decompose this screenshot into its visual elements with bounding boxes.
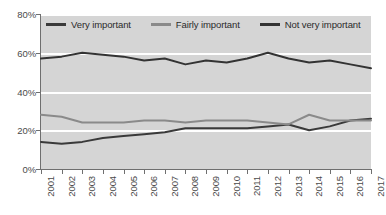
x-axis-label: 2005 — [128, 176, 139, 197]
legend-item-fairly-important: Fairly important — [151, 17, 240, 31]
legend-label: Not very important — [285, 19, 361, 30]
x-tick-mark — [268, 169, 269, 174]
x-axis-label: 2007 — [169, 176, 180, 197]
legend-item-not-very-important: Not very important — [260, 17, 361, 31]
plot-area — [41, 14, 371, 169]
x-axis-label: 2006 — [148, 176, 159, 197]
gridline-40 — [41, 92, 371, 94]
gridline-80 — [41, 14, 371, 16]
legend-swatch-very-important — [46, 23, 66, 26]
x-axis-label: 2013 — [293, 176, 304, 197]
x-tick-mark — [309, 169, 310, 174]
y-axis-label: 0% — [22, 164, 36, 175]
x-axis-label: 2017 — [375, 176, 386, 197]
x-axis-label: 2010 — [231, 176, 242, 197]
x-axis-label: 2012 — [272, 176, 283, 197]
x-tick-mark — [371, 169, 372, 174]
y-tick-mark — [36, 92, 41, 93]
x-tick-mark — [185, 169, 186, 174]
x-tick-mark — [330, 169, 331, 174]
x-axis-label: 2004 — [107, 176, 118, 197]
x-axis-label: 2001 — [45, 176, 56, 197]
x-axis-label: 2014 — [313, 176, 324, 197]
x-axis-label: 2008 — [189, 176, 200, 197]
x-tick-mark — [62, 169, 63, 174]
x-tick-mark — [247, 169, 248, 174]
legend: Very important Fairly important Not very… — [46, 17, 361, 31]
x-tick-mark — [124, 169, 125, 174]
y-axis-label: 40% — [17, 86, 36, 97]
y-tick-mark — [36, 53, 41, 54]
x-tick-mark — [227, 169, 228, 174]
x-tick-mark — [350, 169, 351, 174]
x-axis-label: 2009 — [210, 176, 221, 197]
y-tick-mark — [36, 130, 41, 131]
x-axis-label: 2016 — [354, 176, 365, 197]
legend-swatch-fairly-important — [151, 23, 171, 26]
legend-label: Fairly important — [176, 19, 240, 30]
x-tick-mark — [41, 169, 42, 174]
y-axis-label: 20% — [17, 125, 36, 136]
x-tick-mark — [103, 169, 104, 174]
legend-item-very-important: Very important — [46, 17, 131, 31]
x-tick-mark — [206, 169, 207, 174]
y-axis-label: 80% — [17, 9, 36, 20]
x-axis-label: 2015 — [334, 176, 345, 197]
x-axis-label: 2003 — [86, 176, 97, 197]
y-tick-mark — [36, 14, 41, 15]
gridline-20 — [41, 130, 371, 132]
legend-label: Very important — [71, 19, 131, 30]
x-axis-label: 2011 — [251, 176, 262, 196]
x-tick-mark — [144, 169, 145, 174]
x-tick-mark — [165, 169, 166, 174]
x-axis-label: 2002 — [66, 176, 77, 197]
gridline-60 — [41, 53, 371, 55]
x-tick-mark — [289, 169, 290, 174]
x-tick-mark — [82, 169, 83, 174]
y-axis-label: 60% — [17, 47, 36, 58]
legend-swatch-not-very-important — [260, 23, 280, 26]
